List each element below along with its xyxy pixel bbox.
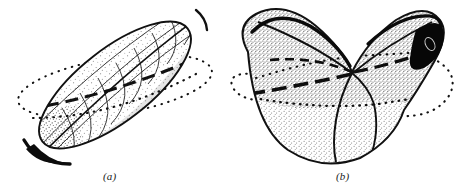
saddle-group (218, 0, 462, 170)
prolate-ellipsoid-drawing (0, 0, 231, 170)
figure-panel-a (0, 0, 231, 195)
figure-plate: (a) (b) (0, 0, 462, 195)
caption-a: (a) (103, 170, 116, 182)
upper-tip-accent (196, 10, 207, 30)
ellipsoid-group (0, 0, 231, 170)
caption-b: (b) (336, 170, 349, 182)
saddle-butterfly-drawing (218, 0, 462, 170)
saddle-point (351, 70, 354, 73)
figure-panel-b (218, 0, 462, 195)
